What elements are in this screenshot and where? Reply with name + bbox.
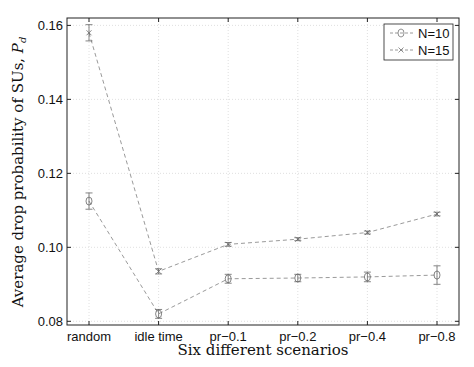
series-line (89, 201, 437, 314)
y-tick-label: 0.12 (38, 166, 63, 181)
y-tick-label: 0.16 (38, 18, 63, 33)
x-tick-label: pr−0.4 (349, 329, 386, 344)
x-tick-label: idle time (134, 329, 182, 344)
series-n15 (86, 25, 441, 274)
y-tick-label: 0.10 (38, 240, 63, 255)
x-tick-label: random (67, 329, 111, 344)
legend-label-n10: N=10 (418, 26, 449, 41)
x-tick-label: pr−0.8 (418, 329, 455, 344)
grid-lines (67, 18, 459, 325)
x-axis-label: Six different scenarios (177, 341, 348, 359)
y-axis-label: Average drop probability of SUs, Pd (9, 37, 28, 309)
series-layer (86, 25, 441, 319)
legend-label-n15: N=15 (418, 43, 449, 58)
y-tick-label: 0.08 (38, 314, 63, 329)
y-axis-label-subscript: d (17, 37, 28, 43)
y-axis-label-text: Average drop probability of SUs, (9, 53, 27, 308)
y-tick-label: 0.14 (38, 92, 63, 107)
legend: N=10 N=15 (384, 24, 453, 60)
series-n10 (86, 193, 441, 318)
axes: 0.080.100.120.140.16randomidle timepr−0.… (38, 18, 459, 344)
plot-frame (67, 18, 459, 325)
series-line (89, 33, 437, 272)
chart: 0.080.100.120.140.16randomidle timepr−0.… (0, 0, 474, 367)
